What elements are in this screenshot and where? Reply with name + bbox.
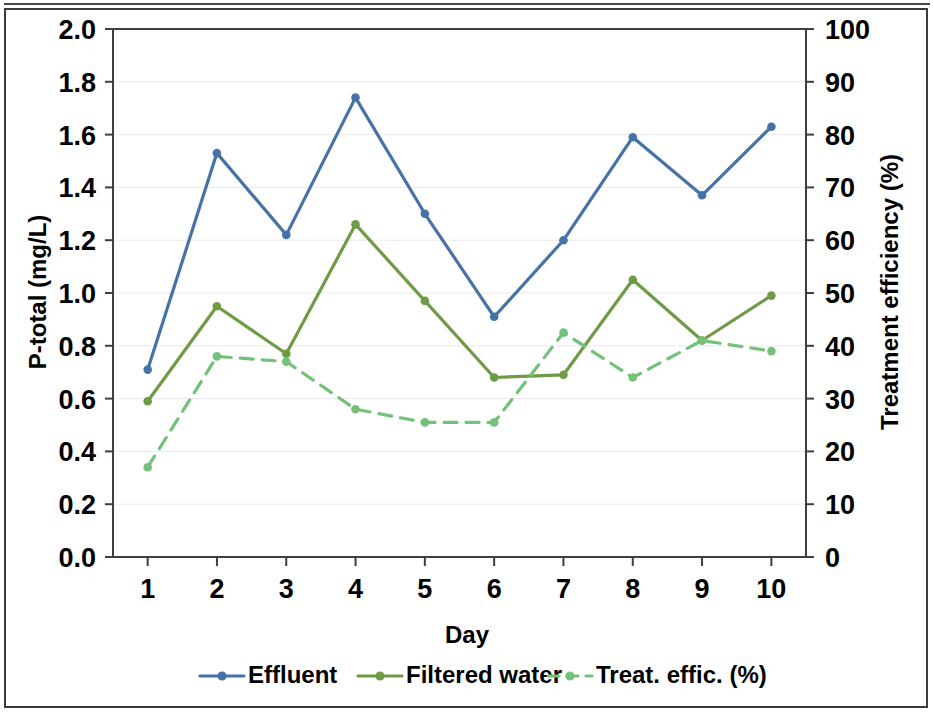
x-tick-label: 10 xyxy=(756,574,786,604)
data-point xyxy=(767,347,776,356)
y-axis-left-labels: 0.00.20.40.60.81.01.21.41.61.82.0 xyxy=(58,15,96,573)
legend-marker-2 xyxy=(565,671,574,680)
data-point xyxy=(351,220,360,229)
legend-marker-0 xyxy=(217,671,226,680)
y-tick-label-right: 80 xyxy=(825,121,855,151)
data-point xyxy=(490,418,499,427)
chart-legend: EffluentFiltered waterTreat. effic. (%) xyxy=(200,661,767,688)
y-tick-label-right: 20 xyxy=(825,437,855,467)
y-tick-label-right: 0 xyxy=(825,543,840,573)
y-tick-label-left: 1.0 xyxy=(58,279,96,309)
x-tick-label: 9 xyxy=(695,574,710,604)
data-point xyxy=(421,418,430,427)
data-point xyxy=(213,302,222,311)
x-axis-labels: 12345678910 xyxy=(140,574,786,604)
data-point xyxy=(629,133,638,142)
x-tick-label: 8 xyxy=(625,574,640,604)
series-line-filtered-water xyxy=(148,224,772,401)
y-axis-left-ticks xyxy=(105,29,113,557)
x-tick-label: 2 xyxy=(209,574,224,604)
data-point xyxy=(490,313,499,322)
series-line-effluent xyxy=(148,98,772,370)
data-point xyxy=(213,149,222,158)
y-axis-title-right: Treatment efficiency (%) xyxy=(876,154,903,430)
series-line-treat-effic xyxy=(148,333,772,468)
y-tick-label-right: 50 xyxy=(825,279,855,309)
gridlines-group xyxy=(113,82,806,504)
legend-label-1: Filtered water xyxy=(406,661,562,688)
y-tick-label-right: 10 xyxy=(825,490,855,520)
data-point xyxy=(767,291,776,300)
y-axis-title-left: P-total (mg/L) xyxy=(24,215,51,370)
data-point xyxy=(351,93,360,102)
x-axis-title: Day xyxy=(445,621,490,648)
legend-marker-1 xyxy=(375,671,384,680)
x-axis-ticks xyxy=(148,557,772,566)
data-point xyxy=(559,236,568,245)
x-tick-label: 4 xyxy=(348,574,363,604)
x-tick-label: 1 xyxy=(140,574,155,604)
data-point xyxy=(282,349,291,358)
data-point xyxy=(282,231,291,240)
data-point xyxy=(698,336,707,345)
data-series-group xyxy=(143,93,775,471)
y-tick-label-right: 40 xyxy=(825,332,855,362)
data-point xyxy=(143,463,152,472)
data-point xyxy=(629,276,638,285)
y-tick-label-left: 0.0 xyxy=(58,543,96,573)
x-tick-label: 3 xyxy=(279,574,294,604)
data-point xyxy=(629,373,638,382)
y-tick-label-left: 2.0 xyxy=(58,15,96,45)
data-point xyxy=(143,365,152,374)
y-tick-label-right: 70 xyxy=(825,173,855,203)
data-point xyxy=(698,191,707,200)
y-tick-label-left: 0.6 xyxy=(58,385,96,415)
figure-container: 0.00.20.40.60.81.01.21.41.61.82.0 010203… xyxy=(0,0,934,715)
data-point xyxy=(490,373,499,382)
y-tick-label-left: 1.8 xyxy=(58,68,96,98)
line-chart: 0.00.20.40.60.81.01.21.41.61.82.0 010203… xyxy=(0,0,934,715)
y-tick-label-right: 60 xyxy=(825,226,855,256)
data-point xyxy=(143,397,152,406)
y-axis-right-ticks xyxy=(806,29,814,557)
data-point xyxy=(559,371,568,380)
y-tick-label-right: 30 xyxy=(825,385,855,415)
y-tick-label-left: 0.8 xyxy=(58,332,96,362)
x-tick-label: 6 xyxy=(487,574,502,604)
x-tick-label: 7 xyxy=(556,574,571,604)
y-tick-label-left: 0.4 xyxy=(58,437,96,467)
data-point xyxy=(282,357,291,366)
y-tick-label-right: 100 xyxy=(825,15,870,45)
y-tick-label-left: 1.2 xyxy=(58,226,96,256)
data-point xyxy=(559,328,568,337)
data-point xyxy=(767,122,776,131)
y-tick-label-left: 0.2 xyxy=(58,490,96,520)
data-point xyxy=(213,352,222,361)
legend-label-2: Treat. effic. (%) xyxy=(596,661,767,688)
y-tick-label-left: 1.4 xyxy=(58,173,96,203)
legend-label-0: Effluent xyxy=(248,661,337,688)
y-tick-label-left: 1.6 xyxy=(58,121,96,151)
data-point xyxy=(421,210,430,219)
data-point xyxy=(421,297,430,306)
y-axis-right-labels: 0102030405060708090100 xyxy=(825,15,870,573)
data-point xyxy=(351,405,360,414)
y-tick-label-right: 90 xyxy=(825,68,855,98)
x-tick-label: 5 xyxy=(417,574,432,604)
